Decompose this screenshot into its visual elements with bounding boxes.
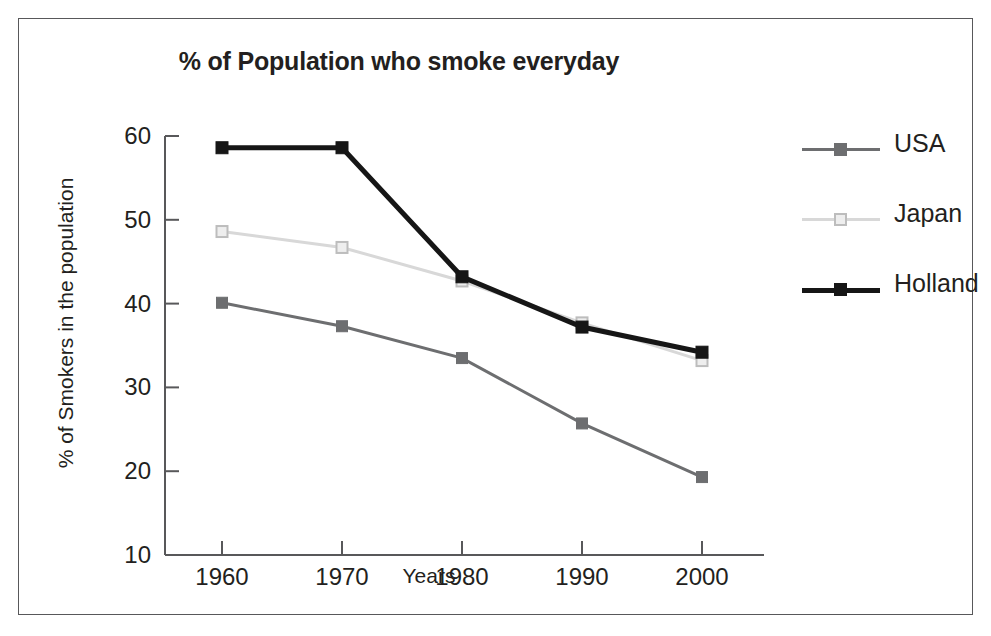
legend-label: Japan <box>894 199 962 228</box>
legend-marker <box>834 143 847 156</box>
data-point-marker <box>697 472 708 483</box>
x-axis-ticks <box>222 541 702 555</box>
x-axis-tick-label: 1970 <box>292 565 392 589</box>
data-point-marker <box>696 346 708 358</box>
chart-figure-frame: % of Population who smoke everyday % of … <box>18 18 973 615</box>
legend-entry-japan[interactable]: Japan <box>802 197 982 267</box>
x-axis-tick-label: 1990 <box>532 565 632 589</box>
data-point-marker <box>337 242 348 253</box>
y-axis-tick-label: 50 <box>91 208 151 232</box>
legend-marker <box>834 213 847 226</box>
y-axis-tick-label: 20 <box>91 459 151 483</box>
legend-marker <box>834 283 847 296</box>
y-axis-title: % of Smokers in the population <box>54 158 78 488</box>
legend-label: Holland <box>894 269 979 298</box>
legend-entry-usa[interactable]: USA <box>802 127 982 197</box>
data-point-marker <box>456 271 468 283</box>
series-line <box>222 148 702 352</box>
series-line <box>222 232 702 361</box>
legend-swatch <box>802 139 880 159</box>
legend-swatch <box>802 209 880 229</box>
data-point-marker <box>577 418 588 429</box>
series-line <box>222 303 702 477</box>
legend-label: USA <box>894 129 945 158</box>
legend-entry-holland[interactable]: Holland <box>802 267 982 337</box>
data-point-marker <box>336 142 348 154</box>
x-axis-tick-label: 1960 <box>172 565 272 589</box>
chart-legend: USAJapanHolland <box>802 127 982 337</box>
series-holland <box>216 142 708 358</box>
y-axis-tick-label: 10 <box>91 543 151 567</box>
y-axis-tick-label: 30 <box>91 375 151 399</box>
data-point-marker <box>216 142 228 154</box>
data-point-marker <box>217 226 228 237</box>
data-point-marker <box>576 321 588 333</box>
series-japan <box>217 226 708 366</box>
data-series-layer <box>216 142 708 483</box>
data-point-marker <box>337 321 348 332</box>
x-axis-tick-label: 1980 <box>412 565 512 589</box>
series-usa <box>217 297 708 482</box>
data-point-marker <box>217 297 228 308</box>
y-axis-tick-label: 40 <box>91 292 151 316</box>
data-point-marker <box>457 353 468 364</box>
y-axis-ticks <box>165 136 179 555</box>
y-axis-tick-label: 60 <box>91 124 151 148</box>
legend-swatch <box>802 279 880 299</box>
x-axis-tick-label: 2000 <box>652 565 752 589</box>
